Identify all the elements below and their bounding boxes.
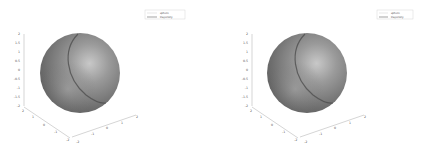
svg-text:1.5: 1.5: [243, 41, 248, 45]
svg-text:-1: -1: [282, 130, 285, 134]
svg-text:0: 0: [18, 68, 20, 72]
svg-text:1.5: 1.5: [15, 41, 20, 45]
svg-text:-0.5: -0.5: [242, 77, 248, 81]
svg-text:2: 2: [246, 32, 248, 36]
plot-left: 2 1.5 1 0.5 0 -0.5 -1 -1.5 -2 2 1 0 -1 -…: [0, 0, 212, 150]
svg-text:2: 2: [18, 32, 20, 36]
plot-right: 2 1.5 1 0.5 0 -0.5 -1 -1.5 -2 2 1 0 -1 -…: [212, 0, 425, 150]
sphere-surface: [40, 33, 120, 113]
svg-text:trajectory: trajectory: [391, 16, 404, 19]
z-axis: 2 1.5 1 0.5 0 -0.5 -1 -1.5 -2: [14, 32, 24, 108]
svg-text:2: 2: [364, 115, 366, 119]
svg-text:-1.5: -1.5: [14, 95, 20, 99]
x-axis: 2 1 0 -1 -2: [22, 107, 70, 142]
svg-text:1: 1: [260, 115, 262, 119]
svg-text:2: 2: [136, 115, 138, 119]
svg-text:-2: -2: [76, 140, 79, 144]
svg-text:1: 1: [18, 50, 20, 54]
plot-right-canvas: 2 1.5 1 0.5 0 -0.5 -1 -1.5 -2 2 1 0 -1 -…: [212, 0, 425, 150]
svg-text:-1: -1: [245, 86, 248, 90]
plot-left-canvas: 2 1.5 1 0.5 0 -0.5 -1 -1.5 -2 2 1 0 -1 -…: [0, 0, 212, 150]
z-axis: 2 1.5 1 0.5 0 -0.5 -1 -1.5 -2: [242, 32, 252, 108]
svg-text:-2: -2: [17, 104, 20, 108]
svg-text:0: 0: [106, 126, 108, 130]
svg-text:0: 0: [334, 126, 336, 130]
svg-text:1: 1: [121, 121, 123, 125]
svg-text:-0.5: -0.5: [14, 77, 20, 81]
svg-text:sphere: sphere: [391, 12, 400, 15]
svg-text:0: 0: [271, 123, 273, 127]
svg-text:1: 1: [349, 121, 351, 125]
svg-text:-2: -2: [66, 138, 69, 142]
svg-text:-1: -1: [91, 132, 94, 136]
svg-text:0: 0: [246, 68, 248, 72]
svg-text:0.5: 0.5: [243, 59, 248, 63]
svg-text:-1: -1: [319, 132, 322, 136]
svg-text:-1.5: -1.5: [242, 95, 248, 99]
y-axis: -2 -1 0 1 2: [300, 115, 366, 144]
svg-text:2: 2: [250, 109, 252, 113]
svg-text:2: 2: [22, 109, 24, 113]
svg-text:1: 1: [246, 50, 248, 54]
svg-text:-2: -2: [294, 138, 297, 142]
svg-text:-2: -2: [304, 140, 307, 144]
legend: sphere trajectory: [145, 10, 185, 19]
svg-text:-2: -2: [245, 104, 248, 108]
svg-text:-1: -1: [17, 86, 20, 90]
svg-text:trajectory: trajectory: [160, 16, 173, 19]
svg-text:1: 1: [32, 115, 34, 119]
svg-text:0: 0: [43, 123, 45, 127]
svg-text:0.5: 0.5: [15, 59, 20, 63]
svg-text:sphere: sphere: [160, 12, 169, 15]
legend: sphere trajectory: [377, 10, 413, 19]
y-axis: -2 -1 0 1 2: [72, 115, 138, 144]
svg-text:-1: -1: [54, 130, 57, 134]
sphere-surface: [267, 33, 347, 113]
x-axis: 2 1 0 -1 -2: [250, 107, 298, 142]
